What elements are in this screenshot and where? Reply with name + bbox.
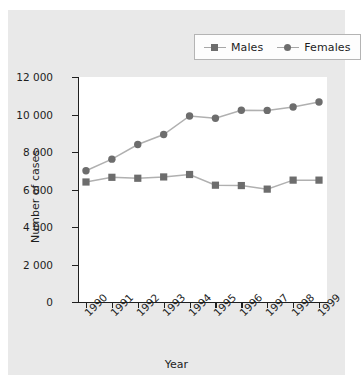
- data-point-females-1995: [212, 115, 219, 122]
- y-axis-title: Number of cases: [29, 137, 42, 257]
- series-line-males: [86, 175, 319, 190]
- data-point-males-1999: [315, 177, 322, 184]
- data-point-males-1991: [108, 174, 115, 181]
- data-point-males-1998: [290, 177, 297, 184]
- data-point-females-1990: [82, 167, 89, 174]
- data-point-males-1997: [264, 186, 271, 193]
- data-point-females-1992: [134, 141, 141, 148]
- data-point-males-1996: [238, 182, 245, 189]
- x-axis-title: Year: [8, 358, 345, 371]
- data-point-females-1993: [160, 131, 167, 138]
- data-point-males-1994: [186, 171, 193, 178]
- data-point-males-1992: [134, 175, 141, 182]
- data-point-females-1997: [264, 107, 271, 114]
- data-point-females-1998: [289, 103, 296, 110]
- series-line-females: [86, 102, 319, 171]
- data-point-females-1996: [238, 106, 245, 113]
- series-layer: [8, 10, 345, 375]
- data-point-males-1995: [212, 182, 219, 189]
- chart-figure-panel: Males Females 02 0004 0006 0008 00010 00…: [8, 10, 345, 375]
- data-point-males-1990: [82, 178, 89, 185]
- data-point-females-1991: [108, 155, 115, 162]
- data-point-males-1993: [160, 173, 167, 180]
- data-point-females-1999: [315, 98, 322, 105]
- data-point-females-1994: [186, 112, 193, 119]
